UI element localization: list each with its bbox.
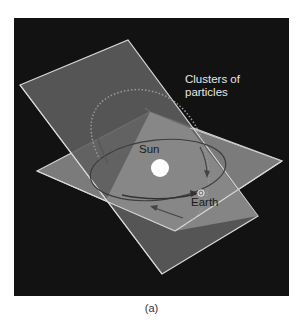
sun-label: Sun bbox=[139, 143, 159, 156]
earth-label: Earth bbox=[191, 196, 219, 209]
meteor-shower-diagram: Clusters of particles Sun Earth (a) bbox=[0, 0, 303, 326]
planes-illustration bbox=[0, 0, 303, 326]
clusters-label: Clusters of particles bbox=[185, 73, 240, 99]
clusters-label-line2: particles bbox=[185, 86, 240, 99]
sun-icon bbox=[151, 159, 169, 177]
clusters-label-line1: Clusters of bbox=[185, 73, 240, 86]
figure-caption: (a) bbox=[0, 302, 303, 314]
